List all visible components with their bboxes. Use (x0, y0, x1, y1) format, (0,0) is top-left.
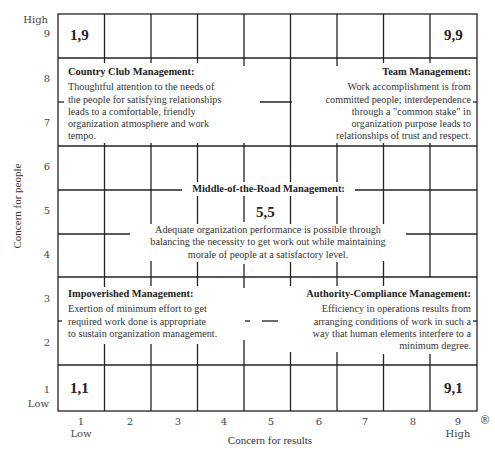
coord-5-5: 5,5 (256, 204, 275, 221)
team-line: committed people; interdependence (298, 94, 471, 106)
authority-line: arranging conditions of work in such a (280, 316, 471, 328)
country-club-line: organization atmosphere and work (68, 118, 258, 130)
country-club-line: leads to a comfortable, friendly (68, 106, 258, 118)
y-tick-3: 3 (20, 293, 50, 304)
impoverished-line: required work done is appropriate (68, 316, 243, 328)
coord-9-1: 9,1 (444, 380, 463, 397)
y-tick-4: 4 (20, 249, 50, 260)
authority-line: Efficiency in operations results from (280, 303, 471, 315)
x-tick-6: 6 (309, 416, 329, 427)
coord-1-1: 1,1 (70, 380, 89, 397)
y-tick-2: 2 (20, 337, 50, 348)
country-club-title: Country Club Management: (68, 66, 258, 78)
authority-line: way that human elements interfere to a (280, 328, 471, 340)
middle-of-road-title: Middle-of-the-Road Management: (182, 183, 355, 195)
x-tick-7: 7 (355, 416, 375, 427)
team-line: Work accomplishment is from (298, 81, 471, 93)
coord-9-9: 9,9 (444, 27, 463, 44)
y-tick-8: 8 (20, 73, 50, 84)
team-line: through a "common stake" in (298, 106, 471, 118)
country-club-line: tempo. (68, 130, 258, 142)
middle-of-road-description: Adequate organization performance is pos… (130, 224, 406, 261)
x-tick-8: 8 (403, 416, 423, 427)
impoverished-title: Impoverished Management: (68, 288, 243, 300)
middle-line: balancing the necessity to get work out … (130, 236, 406, 248)
middle-line: morale of people at a satisfactory level… (130, 249, 406, 261)
country-club-line: Thoughtful attention to the needs of (68, 81, 258, 93)
impoverished-line: Exertion of minimum effort to get (68, 303, 243, 315)
registered-mark: ® (478, 414, 492, 427)
team-line: relationships of trust and respect. (298, 130, 471, 142)
team-title: Team Management: (298, 66, 471, 78)
x-tick-3: 3 (168, 416, 188, 427)
authority-compliance-title: Authority-Compliance Management: (280, 288, 471, 300)
x-axis-high-label: High (440, 428, 476, 439)
y-tick-1: 1 (20, 384, 50, 395)
y-tick-5: 5 (20, 205, 50, 216)
x-axis-low-label: Low (66, 428, 96, 439)
y-axis-low-label: Low (19, 398, 49, 409)
y-tick-7: 7 (20, 117, 50, 128)
x-tick-1: 1 (71, 416, 91, 427)
y-axis-high-label: High (18, 14, 48, 25)
middle-line: Adequate organization performance is pos… (130, 224, 406, 236)
team-management-box: Team Management: Work accomplishment is … (296, 66, 473, 143)
impoverished-management-box: Impoverished Management: Exertion of min… (66, 288, 245, 340)
team-line: organization purpose leads to (298, 118, 471, 130)
country-club-management-box: Country Club Management: Thoughtful atte… (66, 66, 260, 143)
coord-1-9: 1,9 (70, 27, 89, 44)
x-tick-2: 2 (120, 416, 140, 427)
x-tick-4: 4 (214, 416, 234, 427)
middle-of-road-title-box: Middle-of-the-Road Management: (182, 183, 355, 195)
authority-line: minimum degree. (280, 340, 471, 352)
country-club-line: the people for satisfying relationships (68, 94, 258, 106)
y-tick-6: 6 (20, 161, 50, 172)
x-tick-9: 9 (448, 416, 468, 427)
impoverished-line: to sustain organization management. (68, 328, 243, 340)
y-axis-title: Concern for people (11, 156, 23, 256)
x-tick-5: 5 (261, 416, 281, 427)
y-tick-9: 9 (20, 28, 50, 39)
x-axis-title: Concern for results (200, 434, 340, 446)
authority-compliance-management-box: Authority-Compliance Management: Efficie… (278, 288, 473, 352)
